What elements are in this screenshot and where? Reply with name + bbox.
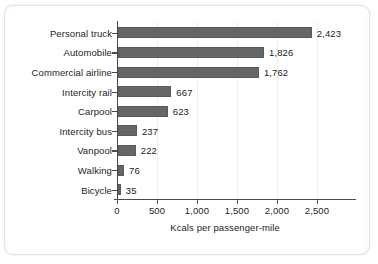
bar-value-label: 1,762	[264, 67, 288, 78]
bar-value-label: 35	[126, 185, 137, 196]
bar-value-label: 623	[173, 106, 189, 117]
bar[interactable]	[118, 47, 264, 58]
bar-value-label: 1,826	[269, 47, 293, 58]
x-axis-tick-label: 1,000	[185, 205, 209, 216]
category-label: Personal truck	[50, 28, 112, 39]
x-axis-tick-label: 0	[114, 205, 119, 216]
x-gridline	[317, 22, 318, 199]
x-axis-tick-label: 500	[149, 205, 165, 216]
x-axis-tick-label: 2,000	[265, 205, 289, 216]
bar-value-label: 237	[142, 126, 158, 137]
category-label: Intercity bus	[59, 126, 112, 137]
x-axis-tick-label: 1,500	[225, 205, 249, 216]
bar[interactable]	[118, 184, 121, 195]
x-axis-tick	[317, 200, 318, 204]
category-label: Automobile	[63, 47, 112, 58]
bar[interactable]	[118, 165, 124, 176]
x-axis-tick	[117, 200, 118, 204]
bar-chart-figure: 05001,0001,5002,0002,500Personal truck2,…	[0, 0, 378, 264]
bar[interactable]	[118, 86, 171, 97]
category-label: Carpool	[78, 106, 112, 117]
category-label: Commercial airline	[32, 67, 112, 78]
x-axis-tick	[277, 200, 278, 204]
x-axis-tick	[197, 200, 198, 204]
bar-value-label: 2,423	[317, 28, 341, 39]
bar-value-label: 76	[129, 165, 140, 176]
category-label: Intercity rail	[62, 87, 112, 98]
bar[interactable]	[118, 106, 168, 117]
x-axis-tick	[237, 200, 238, 204]
bar[interactable]	[118, 27, 312, 38]
x-axis-tick	[157, 200, 158, 204]
bar[interactable]	[118, 67, 259, 78]
category-label: Bicycle	[81, 185, 112, 196]
bar-value-label: 667	[176, 87, 192, 98]
x-axis-line	[114, 199, 356, 200]
bar[interactable]	[118, 125, 137, 136]
x-axis-title: Kcals per passenger-mile	[117, 222, 333, 233]
bar-value-label: 222	[141, 145, 157, 156]
bar[interactable]	[118, 145, 136, 156]
x-axis-tick-label: 2,500	[305, 205, 329, 216]
category-label: Vanpool	[77, 145, 112, 156]
category-label: Walking	[78, 165, 112, 176]
y-axis-line	[117, 21, 118, 200]
